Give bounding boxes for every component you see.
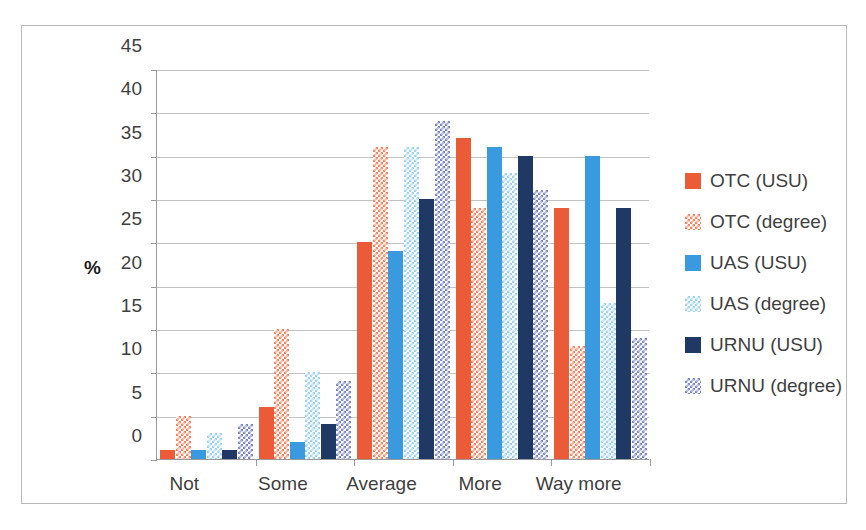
legend-item-label: OTC (degree): [710, 212, 827, 231]
legend-item-label: URNU (USU): [710, 335, 823, 354]
bar: [336, 381, 351, 459]
bar: [305, 372, 320, 459]
x-axis-tick-label: Some: [258, 473, 308, 495]
bar: [357, 242, 372, 459]
legend-swatch-icon: [685, 173, 701, 189]
legend-item-label: UAS (USU): [710, 253, 807, 272]
y-axis-tick-mark: [151, 287, 157, 288]
x-axis-tick-mark: [256, 459, 257, 466]
bar: [388, 251, 403, 459]
x-axis-tick-mark: [453, 459, 454, 466]
y-axis-tick-label: 30: [121, 166, 142, 185]
y-axis-tick-mark: [151, 417, 157, 418]
y-axis-tick-mark: [151, 330, 157, 331]
bar: [471, 208, 486, 459]
legend-swatch-icon: [685, 296, 701, 312]
bar: [259, 407, 274, 459]
y-axis-tick-mark: [151, 460, 157, 461]
legend-swatch-icon: [685, 337, 701, 353]
bar: [632, 338, 647, 459]
bar: [373, 147, 388, 459]
y-axis-tick-mark: [151, 157, 157, 158]
bar: [554, 208, 569, 459]
y-axis-tick-label: 35: [121, 122, 142, 141]
y-axis-tick-label: 0: [131, 426, 142, 445]
y-axis-tick-label: 45: [121, 36, 142, 55]
bar-chart-figure: % 454035302520151050 NotSomeAverageMoreW…: [0, 0, 866, 530]
y-axis-title: %: [84, 257, 101, 279]
bar: [207, 433, 222, 459]
legend-item[interactable]: UAS (degree): [685, 283, 842, 324]
x-axis-tick-label: More: [458, 473, 501, 495]
y-axis-tick-mark: [151, 373, 157, 374]
bar: [487, 147, 502, 459]
y-axis-tick-label: 10: [121, 339, 142, 358]
chart-frame: % 454035302520151050 NotSomeAverageMoreW…: [21, 25, 847, 504]
legend-swatch-icon: [685, 255, 701, 271]
legend-item[interactable]: OTC (degree): [685, 201, 842, 242]
bar: [502, 173, 517, 459]
plot-area: [156, 70, 649, 460]
chart-legend: OTC (USU)OTC (degree)UAS (USU)UAS (degre…: [685, 160, 842, 406]
bar: [570, 346, 585, 459]
bar: [160, 450, 175, 459]
bar: [533, 190, 548, 459]
bar: [518, 156, 533, 459]
x-axis-tick-label: Average: [346, 473, 416, 495]
bar: [601, 303, 616, 459]
legend-item[interactable]: URNU (USU): [685, 324, 842, 365]
bar: [456, 138, 471, 459]
bar: [321, 424, 336, 459]
y-axis-tick-label: 40: [121, 79, 142, 98]
x-axis-tick-mark: [354, 459, 355, 466]
y-axis-tick-label: 5: [131, 382, 142, 401]
x-axis-tick-mark: [650, 459, 651, 466]
y-axis-tick-label: 25: [121, 209, 142, 228]
gridline: [157, 113, 649, 114]
bar: [435, 121, 450, 459]
legend-item-label: URNU (degree): [710, 376, 842, 395]
bar: [274, 329, 289, 459]
bar: [176, 416, 191, 459]
x-axis-tick-label: Way more: [536, 473, 622, 495]
legend-item[interactable]: OTC (USU): [685, 160, 842, 201]
y-axis-tick-label: 20: [121, 252, 142, 271]
legend-item[interactable]: URNU (degree): [685, 365, 842, 406]
bar: [404, 147, 419, 459]
y-axis-tick-mark: [151, 70, 157, 71]
y-axis-tick-label: 15: [121, 296, 142, 315]
bar: [222, 450, 237, 459]
y-axis-tick-mark: [151, 113, 157, 114]
x-axis-tick-mark: [551, 459, 552, 466]
legend-item-label: OTC (USU): [710, 171, 808, 190]
bar: [238, 424, 253, 459]
bar: [290, 442, 305, 459]
bar: [419, 199, 434, 459]
bar: [191, 450, 206, 459]
gridline: [157, 70, 649, 71]
y-axis-tick-mark: [151, 243, 157, 244]
legend-swatch-icon: [685, 214, 701, 230]
x-axis-tick-label: Not: [170, 473, 200, 495]
bar: [585, 156, 600, 459]
y-axis-tick-mark: [151, 200, 157, 201]
bar: [616, 208, 631, 459]
legend-item[interactable]: UAS (USU): [685, 242, 842, 283]
legend-swatch-icon: [685, 378, 701, 394]
legend-item-label: UAS (degree): [710, 294, 826, 313]
